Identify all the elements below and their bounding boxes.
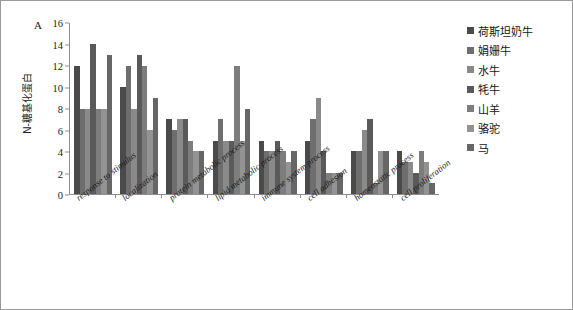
bar-group-bars	[259, 23, 297, 194]
legend-swatch	[467, 66, 474, 73]
figure-panel: A N-糖基化蛋白 0246810121416 response to stim…	[0, 0, 573, 310]
legend-label: 牦牛	[478, 81, 500, 97]
legend-item: 马	[467, 138, 567, 158]
y-tick-mark	[65, 87, 69, 88]
legend-label: 水牛	[478, 62, 500, 78]
legend-item: 骆驼	[467, 119, 567, 139]
bar-group-bars	[166, 23, 204, 194]
y-axis-title: N-糖基化蛋白	[19, 49, 34, 159]
bar-group-bars	[351, 23, 389, 194]
bar	[429, 183, 434, 194]
legend-swatch	[467, 105, 474, 112]
legend: 荷斯坦奶牛娟姗牛水牛牦牛山羊骆驼马	[467, 21, 567, 158]
panel-letter: A	[34, 19, 42, 31]
legend-label: 骆驼	[478, 120, 500, 136]
y-tick-mark	[65, 109, 69, 110]
x-axis-labels: response to stimuluslocalizationprotein …	[69, 195, 439, 295]
legend-label: 山羊	[478, 101, 500, 117]
bar-group-bars	[397, 23, 435, 194]
y-tick-mark	[65, 130, 69, 131]
legend-item: 荷斯坦奶牛	[467, 21, 567, 41]
legend-swatch	[467, 125, 474, 132]
legend-label: 荷斯坦奶牛	[478, 23, 533, 39]
legend-label: 娟姗牛	[478, 42, 511, 58]
y-tick-mark	[65, 44, 69, 45]
legend-item: 山羊	[467, 99, 567, 119]
y-tick-mark	[65, 66, 69, 67]
legend-item: 水牛	[467, 60, 567, 80]
legend-swatch	[467, 144, 474, 151]
legend-item: 娟姗牛	[467, 41, 567, 61]
legend-item: 牦牛	[467, 80, 567, 100]
legend-swatch	[467, 47, 474, 54]
legend-swatch	[467, 86, 474, 93]
bar-group-bars	[213, 23, 251, 194]
y-tick-mark	[65, 23, 69, 24]
y-tick-mark	[65, 152, 69, 153]
y-tick-mark	[65, 173, 69, 174]
legend-label: 马	[478, 140, 489, 156]
legend-swatch	[467, 27, 474, 34]
